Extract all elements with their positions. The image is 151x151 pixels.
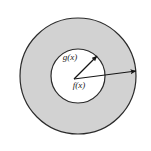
figure-container: g(x) f(x) [0, 0, 151, 151]
annulus-diagram: g(x) f(x) [0, 0, 151, 151]
g-of-x-label: g(x) [63, 52, 78, 62]
f-of-x-label: f(x) [73, 80, 86, 90]
